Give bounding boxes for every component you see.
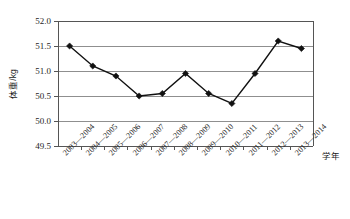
y-tick-label-52-0: 52.0 bbox=[35, 16, 51, 26]
y-axis-title: 体重/kg bbox=[8, 69, 18, 99]
y-tick-label-51-5: 51.5 bbox=[35, 41, 51, 51]
chart-background bbox=[0, 0, 350, 219]
y-tick-label-51-0: 51.0 bbox=[35, 66, 51, 76]
y-tick-label-49-5: 49.5 bbox=[35, 141, 51, 151]
y-tick-label-50-0: 50.0 bbox=[35, 116, 51, 126]
weight-trend-line-chart: 52.0 51.5 51.0 50.5 50.0 49.5 体重/kg 2003… bbox=[0, 0, 350, 219]
x-axis-title: 学年 bbox=[322, 151, 340, 161]
chart-canvas: 52.0 51.5 51.0 50.5 50.0 49.5 体重/kg 2003… bbox=[0, 0, 350, 219]
y-tick-label-50-5: 50.5 bbox=[35, 91, 51, 101]
